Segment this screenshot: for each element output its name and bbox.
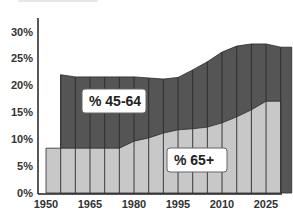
label-65-plus: % 65+ [167, 148, 227, 172]
x-tick: 1950 [34, 198, 58, 210]
label-text-45-64: % 45-64 [89, 93, 141, 109]
x-tick: 2025 [254, 198, 278, 210]
x-tick: 1965 [78, 198, 102, 210]
stacked-area-chart: 0% 5% 10% 15% 20% 25% 30% 1950 1965 1980… [0, 0, 293, 223]
y-tick: 10% [11, 133, 33, 145]
x-tick: 1980 [122, 198, 146, 210]
x-axis-ticks: 1950 1965 1980 1995 2010 2025 [34, 198, 278, 210]
y-tick: 15% [11, 106, 33, 118]
y-tick: 30% [11, 26, 33, 38]
label-text-65-plus: % 65+ [174, 152, 214, 168]
y-tick: 25% [11, 52, 33, 64]
x-tick: 1995 [166, 198, 190, 210]
x-tick: 2010 [210, 198, 234, 210]
y-tick: 5% [17, 160, 33, 172]
y-tick: 20% [11, 79, 33, 91]
y-axis-ticks: 0% 5% 10% 15% 20% 25% 30% [11, 26, 33, 199]
label-45-64: % 45-64 [82, 89, 146, 113]
y-tick: 0% [17, 187, 33, 199]
